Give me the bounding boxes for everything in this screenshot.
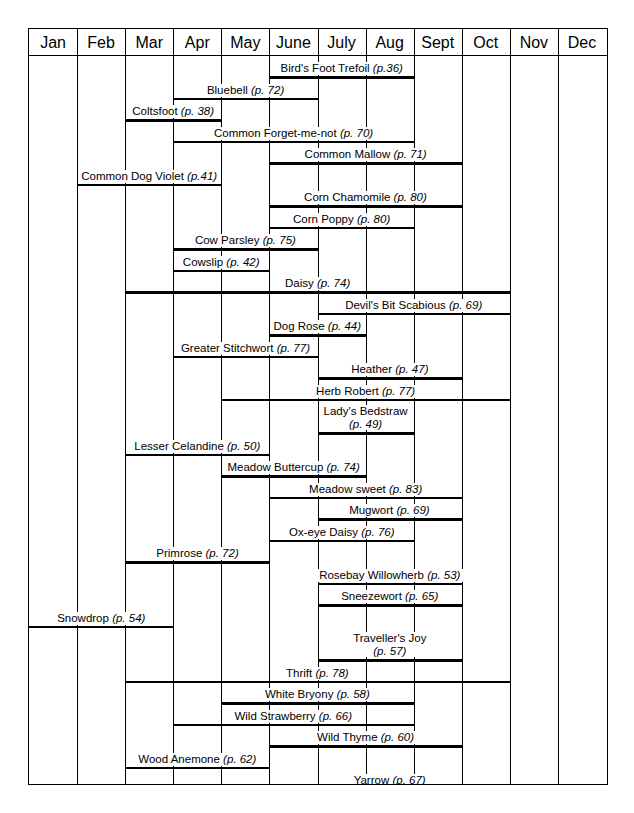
flowering-bar-label: Corn Chamomile (p. 80) — [301, 191, 430, 204]
flowering-bar-label: Sneezewort (p. 65) — [338, 590, 441, 603]
species-name: Meadow sweet — [309, 483, 386, 495]
species-page-ref: (p. 49) — [349, 418, 382, 430]
species-name: Corn Poppy — [293, 213, 354, 225]
header-grid-line — [173, 29, 174, 56]
month-grid-line — [269, 56, 270, 784]
flowering-bar — [173, 98, 317, 101]
month-header-apr: Apr — [173, 29, 221, 56]
flowering-bar-label: Corn Poppy (p. 80) — [290, 213, 393, 226]
species-name: Primrose — [156, 547, 202, 559]
species-page-ref: (p.36) — [373, 62, 403, 74]
species-name: Devil's Bit Scabious — [345, 299, 446, 311]
species-name: Corn Chamomile — [304, 191, 390, 203]
species-name: Thrift — [286, 667, 312, 679]
species-page-ref: (p. 69) — [449, 299, 482, 311]
month-grid-line — [558, 56, 559, 784]
flowering-bar — [318, 604, 462, 607]
flowering-bar — [269, 540, 413, 543]
flowering-bar — [269, 334, 365, 337]
flowering-bar-label: Mugwort (p. 69) — [346, 504, 433, 517]
month-header-oct: Oct — [462, 29, 510, 56]
header-grid-line — [462, 29, 463, 56]
flowering-bar — [125, 454, 269, 457]
flowering-bar-label: Herb Robert (p. 77) — [313, 385, 418, 398]
species-page-ref: (p. 77) — [382, 385, 415, 397]
flowering-bar-label: Daisy (p. 74) — [282, 277, 353, 290]
header-grid-line — [318, 29, 319, 56]
species-page-ref: (p. 47) — [395, 363, 428, 375]
flowering-bar — [318, 432, 414, 435]
species-name: Cow Parsley — [195, 234, 260, 246]
header-grid-line — [414, 29, 415, 56]
flowering-bar — [125, 119, 221, 122]
flowering-bar — [173, 356, 317, 359]
species-name: Wild Strawberry — [234, 710, 315, 722]
species-page-ref: (p. 74) — [317, 277, 350, 289]
species-name: Heather — [351, 363, 392, 375]
flowering-bar — [221, 399, 510, 402]
header-grid-line — [125, 29, 126, 56]
plot-area: Bird's Foot Trefoil (p.36)Bluebell (p. 7… — [29, 56, 607, 784]
flowering-bar — [173, 248, 317, 251]
month-header-sept: Sept — [414, 29, 462, 56]
month-grid-line — [125, 56, 126, 784]
month-grid-line — [221, 56, 222, 784]
species-page-ref: (p. 58) — [337, 688, 370, 700]
month-header-mar: Mar — [125, 29, 173, 56]
flowering-bar — [318, 583, 462, 586]
species-name: Lady's Bedstraw — [324, 405, 408, 417]
month-grid-line — [77, 56, 78, 784]
flowering-bar — [318, 313, 510, 316]
flowering-times-chart: JanFebMarAprMayJuneJulyAugSeptOctNovDec … — [0, 0, 634, 813]
species-name: Cowslip — [183, 256, 223, 268]
flowering-bar — [269, 745, 461, 748]
flowering-bar-label: Lady's Bedstraw(p. 49) — [321, 405, 411, 430]
flowering-bar-label: Bird's Foot Trefoil (p.36) — [278, 62, 406, 75]
flowering-bar-label: Wild Strawberry (p. 66) — [231, 710, 355, 723]
species-name: Ox-eye Daisy — [289, 526, 358, 538]
flowering-bar — [173, 724, 413, 727]
species-page-ref: (p. 78) — [315, 667, 348, 679]
header-grid-line — [77, 29, 78, 56]
flowering-bar — [269, 162, 461, 165]
flowering-bar-label: Primrose (p. 72) — [153, 547, 241, 560]
species-name: Meadow Buttercup — [227, 461, 323, 473]
species-page-ref: (p. 80) — [357, 213, 390, 225]
month-header-june: June — [269, 29, 317, 56]
flowering-bar-label: Heather (p. 47) — [348, 363, 431, 376]
flowering-bar — [173, 270, 269, 273]
species-name: Yarrow — [354, 774, 390, 784]
flowering-bar — [125, 291, 510, 294]
flowering-bar-label: Cow Parsley (p. 75) — [192, 234, 299, 247]
flowering-bar-label: Bluebell (p. 72) — [204, 84, 287, 97]
flowering-bar-label: Coltsfoot (p. 38) — [129, 105, 217, 118]
species-name: Daisy — [285, 277, 314, 289]
flowering-bar-label: Common Forget-me-not (p. 70) — [211, 127, 376, 140]
month-header-feb: Feb — [77, 29, 125, 56]
flowering-bar-label: Dog Rose (p. 44) — [271, 320, 365, 333]
flowering-bar-label: Wood Anemone (p. 62) — [135, 753, 259, 766]
month-grid-line — [414, 56, 415, 784]
flowering-bar-label: Thrift (p. 78) — [283, 667, 352, 680]
month-header-row: JanFebMarAprMayJuneJulyAugSeptOctNovDec — [29, 29, 607, 56]
flowering-bar-label: Common Dog Violet (p.41) — [78, 170, 220, 183]
species-name: Wood Anemone — [138, 753, 220, 765]
species-name: Herb Robert — [316, 385, 379, 397]
flowering-bar — [269, 497, 461, 500]
species-name: Coltsfoot — [132, 105, 177, 117]
species-page-ref: (p. 54) — [112, 612, 145, 624]
species-name: Rosebay Willowherb — [319, 569, 424, 581]
species-page-ref: (p. 75) — [263, 234, 296, 246]
species-page-ref: (p. 57) — [373, 645, 406, 657]
flowering-bar — [125, 767, 269, 770]
flowering-bar-label: Meadow Buttercup (p. 74) — [224, 461, 362, 474]
month-header-nov: Nov — [510, 29, 558, 56]
month-header-may: May — [221, 29, 269, 56]
species-name: Dog Rose — [274, 320, 325, 332]
flowering-bar-label: Common Mallow (p. 71) — [302, 148, 430, 161]
flowering-bar-label: Snowdrop (p. 54) — [54, 612, 148, 625]
species-page-ref: (p. 62) — [223, 753, 256, 765]
header-grid-line — [558, 29, 559, 56]
species-page-ref: (p. 53) — [427, 569, 460, 581]
species-name: White Bryony — [265, 688, 333, 700]
